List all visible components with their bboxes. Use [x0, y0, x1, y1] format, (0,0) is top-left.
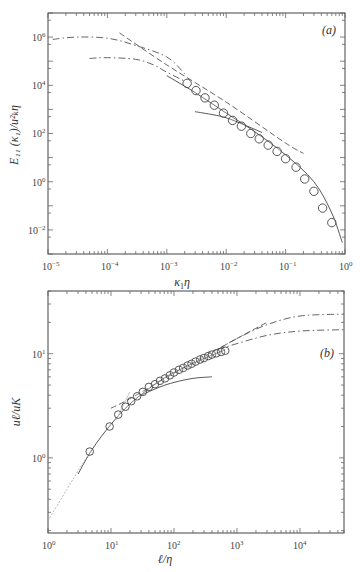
- y-tick-label: 101: [32, 348, 46, 360]
- series-line: [78, 350, 225, 474]
- data-point: [247, 129, 255, 137]
- data-point: [328, 218, 336, 226]
- x-tick-label: 101: [105, 539, 119, 551]
- x-tick-label: 10−4: [101, 260, 119, 272]
- x-tick-label: 102: [167, 539, 181, 551]
- data-point: [114, 411, 122, 419]
- data-point: [201, 94, 209, 102]
- series-line: [167, 76, 342, 243]
- series-line: [48, 450, 92, 521]
- data-point: [301, 175, 309, 183]
- series-a: [53, 33, 343, 243]
- data-point: [273, 147, 281, 155]
- axis-ticks-a: [48, 13, 345, 254]
- panel-label-a: (a): [322, 23, 336, 37]
- x-tick-labels-b: 100 101 102 103 104: [42, 539, 307, 551]
- data-point: [183, 79, 191, 87]
- x-tick-label: 10−5: [42, 260, 60, 272]
- data-point: [228, 116, 236, 124]
- panel-a: 10−5 10−4 10−3 10−2 10−1 100 106 104 102…: [7, 13, 353, 291]
- data-point: [281, 155, 289, 163]
- y-tick-label: 104: [32, 79, 46, 91]
- x-tick-label: 100: [339, 260, 353, 272]
- plot-frame-a: [48, 13, 345, 254]
- x-tick-labels-a: 10−5 10−4 10−3 10−2 10−1 100: [42, 260, 353, 272]
- series-line: [218, 314, 344, 349]
- x-tick-label: 10−3: [160, 260, 178, 272]
- data-point: [106, 423, 114, 431]
- data-point: [86, 448, 94, 456]
- data-point: [255, 135, 263, 143]
- panel-b: 100 101 102 103 104 101 100 ℓ/η uℓ/uK (b…: [9, 291, 344, 566]
- panel-label-b: (b): [320, 346, 334, 360]
- plot-frame-b: [48, 291, 344, 533]
- x-tick-label: 10−1: [279, 260, 297, 272]
- x-tick-label: 104: [293, 539, 307, 551]
- data-point: [292, 163, 300, 171]
- figure: 10−5 10−4 10−3 10−2 10−1 100 106 104 102…: [0, 0, 363, 572]
- series-b: [48, 314, 344, 520]
- y-tick-labels-b: 101 100: [32, 348, 46, 464]
- x-axis-label-b: ℓ/η: [158, 552, 172, 566]
- data-point: [310, 187, 318, 195]
- data-point: [237, 122, 245, 130]
- y-tick-labels-a: 106 104 102 100 10−2: [28, 31, 46, 236]
- data-point: [210, 101, 218, 109]
- y-axis-label-a: E₁₁ (κ₁)/u²ₖη: [7, 105, 21, 166]
- x-axis-label-a: κ1η: [174, 275, 190, 291]
- y-tick-label: 106: [32, 31, 46, 43]
- y-tick-label: 102: [32, 127, 46, 139]
- y-tick-label: 100: [32, 452, 46, 464]
- y-tick-label: 10−2: [28, 224, 46, 236]
- series-line: [120, 33, 304, 153]
- data-point: [318, 204, 326, 212]
- data-point: [221, 347, 229, 355]
- y-axis-label-b: uℓ/uK: [9, 397, 23, 426]
- data-point: [192, 86, 200, 94]
- series-line: [53, 37, 185, 74]
- y-tick-label: 100: [32, 176, 46, 188]
- data-point: [219, 109, 227, 117]
- x-tick-label: 100: [42, 539, 56, 551]
- data-point: [264, 141, 272, 149]
- x-tick-label: 103: [230, 539, 244, 551]
- axis-ticks-b: [48, 291, 344, 533]
- x-tick-label: 10−2: [220, 260, 238, 272]
